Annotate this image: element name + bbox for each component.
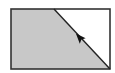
diagram-canvas	[0, 0, 115, 73]
